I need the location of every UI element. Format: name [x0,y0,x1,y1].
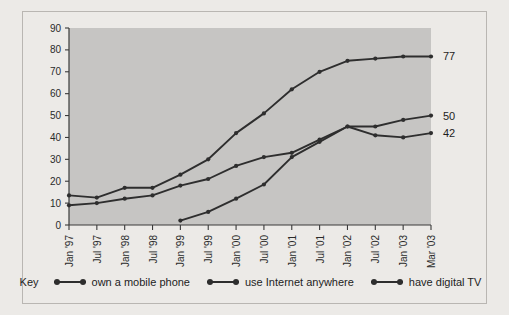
series-marker [206,210,210,214]
series-marker [373,133,377,137]
series-marker [401,118,405,122]
series-marker [95,201,99,205]
series-marker [373,57,377,61]
series-marker [290,87,294,91]
legend-key-label: Key [20,276,39,288]
x-tick-label: Jul '02 [370,235,381,264]
series-marker [178,184,182,188]
y-tick-label: 70 [50,66,62,77]
series-marker [234,131,238,135]
series-marker [234,197,238,201]
x-tick-label: Jul '01 [315,235,326,264]
series-marker [345,124,349,128]
line-chart-svg: 0102030405060708090Jan '97Jul '97Jan '98… [23,12,488,305]
x-tick-label: Jan '97 [64,235,75,267]
chart-frame: 0102030405060708090Jan '97Jul '97Jan '98… [22,11,487,304]
y-tick-label: 60 [50,88,62,99]
series-marker [150,186,154,190]
y-tick-label: 90 [50,23,62,34]
y-tick-label: 40 [50,132,62,143]
x-tick-label: Jul '99 [203,235,214,264]
series-marker [401,135,405,139]
legend-item-use-internet-anywhere: use Internet anywhere [207,276,354,288]
series-end-label-1: 50 [443,110,455,122]
chart-page: 0102030405060708090Jan '97Jul '97Jan '98… [0,0,509,315]
legend-line-icon [54,277,86,287]
x-tick-label: Mar '03 [426,235,437,268]
series-marker [429,114,433,118]
series-marker [178,219,182,223]
series-marker [318,138,322,142]
x-tick-label: Jan '00 [231,235,242,267]
y-tick-label: 30 [50,154,62,165]
y-tick-label: 20 [50,176,62,187]
series-marker [67,203,71,207]
x-tick-label: Jan '99 [175,235,186,267]
series-marker [262,182,266,186]
series-marker [95,196,99,200]
plot-area: 0102030405060708090Jan '97Jul '97Jan '98… [23,12,488,305]
x-tick-label: Jan '02 [342,235,353,267]
series-marker [262,155,266,159]
y-tick-label: 50 [50,110,62,121]
series-marker [401,54,405,58]
series-marker [178,173,182,177]
series-marker [262,111,266,115]
y-tick-label: 10 [50,198,62,209]
chart-legend: Key own a mobile phone use Internet anyw… [23,270,488,294]
series-marker [290,155,294,159]
y-tick-label: 80 [50,44,62,55]
legend-line-icon [207,277,239,287]
series-marker [429,131,433,135]
legend-label: use Internet anywhere [245,276,354,288]
x-tick-label: Jan '01 [287,235,298,267]
series-marker [123,197,127,201]
series-marker [206,177,210,181]
series-marker [67,193,71,197]
legend-line-icon [371,277,403,287]
x-tick-label: Jul '98 [148,235,159,264]
x-tick-label: Jan '98 [120,235,131,267]
legend-label: have digital TV [409,276,482,288]
series-marker [373,124,377,128]
legend-label: own a mobile phone [92,276,190,288]
legend-item-own-a-mobile-phone: own a mobile phone [54,276,190,288]
legend-item-have-digital-tv: have digital TV [371,276,482,288]
series-marker [150,193,154,197]
series-marker [318,70,322,74]
y-tick-label: 0 [55,220,61,231]
series-end-label-0: 77 [443,50,455,62]
series-marker [206,157,210,161]
series-marker [234,164,238,168]
series-marker [123,186,127,190]
series-end-label-2: 42 [443,127,455,139]
x-tick-label: Jul '00 [259,235,270,264]
x-tick-label: Jul '97 [92,235,103,264]
series-marker [290,151,294,155]
series-marker [345,59,349,63]
x-tick-label: Jan '03 [398,235,409,267]
series-marker [429,54,433,58]
